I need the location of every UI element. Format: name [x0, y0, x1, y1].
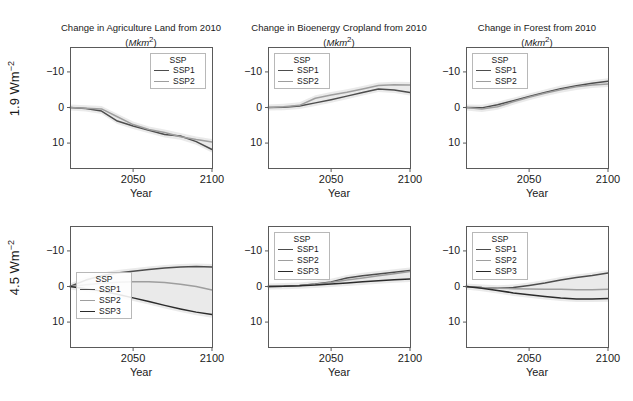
legend-item-ssp2[interactable]: SSP2 [275, 255, 329, 266]
legend-line-swatch-icon [476, 70, 491, 71]
legend-line-swatch-icon [80, 311, 95, 312]
legend-item-ssp3[interactable]: SSP3 [275, 266, 329, 277]
x-tick-label: 2100 [385, 173, 435, 185]
x-tick-label: 2050 [306, 352, 356, 364]
legend-item-ssp2[interactable]: SSP2 [275, 76, 329, 87]
panel-title-line1: Change in Agriculture Land from 2010 [61, 22, 221, 33]
legend-label: SSP1 [99, 284, 121, 295]
legend-agriculture-4p5[interactable]: SSPSSP1SSP2SSP3 [76, 272, 132, 320]
x-axis-label-forest-1p9: Year [497, 187, 577, 199]
y-tick-label: 0 [224, 280, 262, 292]
legend-line-swatch-icon [80, 289, 95, 290]
legend-label: SSP3 [495, 266, 517, 277]
figure-panel-grid: Change in Agriculture Land from 2010(Mkm… [0, 0, 633, 401]
y-tick-label: 0 [26, 280, 64, 292]
y-tick-label: 0 [422, 101, 460, 113]
x-axis-label-bioenergy-1p9: Year [299, 187, 379, 199]
legend-item-ssp1[interactable]: SSP1 [473, 65, 527, 76]
legend-label: SSP2 [99, 295, 121, 306]
legend-line-swatch-icon [154, 81, 169, 82]
legend-line-swatch-icon [476, 271, 491, 272]
legend-forest-4p5[interactable]: SSPSSP1SSP2SSP3 [472, 232, 528, 280]
panel-title-forest-1p9: Change in Forest from 2010(Mkm2) [427, 22, 633, 49]
y-tick-label: 10 [422, 315, 460, 327]
x-axis-label-agriculture-4p5: Year [101, 366, 181, 378]
legend-item-ssp2[interactable]: SSP2 [77, 295, 131, 306]
y-tick-label: −10 [422, 244, 460, 256]
legend-item-ssp1[interactable]: SSP1 [77, 284, 131, 295]
y-tick-label: −10 [224, 244, 262, 256]
x-tick-label: 2100 [187, 173, 237, 185]
y-tick-label: 10 [26, 136, 64, 148]
x-tick-label: 2050 [108, 352, 158, 364]
legend-line-swatch-icon [278, 249, 293, 250]
legend-title: SSP [275, 54, 329, 65]
legend-title: SSP [473, 54, 527, 65]
panel-title-line1: Change in Forest from 2010 [478, 22, 596, 33]
panel-title-bioenergy-1p9: Change in Bioenergy Cropland from 2010(M… [229, 22, 449, 49]
y-tick-label: −10 [26, 244, 64, 256]
x-axis-label-bioenergy-4p5: Year [299, 366, 379, 378]
x-tick-label: 2050 [504, 352, 554, 364]
row-label-rcp45: 4.5 Wm−2 [6, 279, 22, 295]
panel-title-units: (Mkm2) [427, 34, 633, 49]
legend-line-swatch-icon [476, 260, 491, 261]
y-tick-label: 0 [224, 101, 262, 113]
legend-label: SSP3 [297, 266, 319, 277]
x-tick-label: 2050 [306, 173, 356, 185]
legend-bioenergy-1p9[interactable]: SSPSSP1SSP2 [274, 53, 330, 89]
x-axis-label-forest-4p5: Year [497, 366, 577, 378]
y-tick-label: 0 [26, 101, 64, 113]
legend-line-swatch-icon [278, 70, 293, 71]
y-tick-label: 10 [224, 315, 262, 327]
legend-item-ssp2[interactable]: SSP2 [473, 255, 527, 266]
legend-line-swatch-icon [278, 271, 293, 272]
panel-title-line1: Change in Bioenergy Cropland from 2010 [251, 22, 426, 33]
panel-title-units: (Mkm2) [229, 34, 449, 49]
legend-label: SSP2 [297, 255, 319, 266]
legend-label: SSP2 [297, 76, 319, 87]
x-tick-label: 2050 [504, 173, 554, 185]
y-tick-label: 0 [422, 280, 460, 292]
x-tick-label: 2100 [385, 352, 435, 364]
legend-line-swatch-icon [278, 81, 293, 82]
legend-label: SSP1 [297, 65, 319, 76]
legend-label: SSP2 [173, 76, 195, 87]
legend-label: SSP1 [297, 244, 319, 255]
legend-label: SSP3 [99, 306, 121, 317]
panel-title-agriculture-1p9: Change in Agriculture Land from 2010(Mkm… [31, 22, 251, 49]
legend-item-ssp1[interactable]: SSP1 [473, 244, 527, 255]
legend-item-ssp1[interactable]: SSP1 [151, 65, 205, 76]
legend-label: SSP1 [173, 65, 195, 76]
y-tick-label: 10 [224, 136, 262, 148]
legend-line-swatch-icon [476, 249, 491, 250]
legend-line-swatch-icon [476, 81, 491, 82]
legend-agriculture-1p9[interactable]: SSPSSP1SSP2 [150, 53, 206, 89]
x-axis-label-agriculture-1p9: Year [101, 187, 181, 199]
legend-title: SSP [275, 233, 329, 244]
legend-item-ssp1[interactable]: SSP1 [275, 244, 329, 255]
row-label-rcp19: 1.9 Wm−2 [6, 100, 22, 116]
legend-bioenergy-4p5[interactable]: SSPSSP1SSP2SSP3 [274, 232, 330, 280]
legend-item-ssp3[interactable]: SSP3 [473, 266, 527, 277]
legend-line-swatch-icon [154, 70, 169, 71]
legend-label: SSP2 [495, 76, 517, 87]
legend-forest-1p9[interactable]: SSPSSP1SSP2 [472, 53, 528, 89]
legend-label: SSP1 [495, 244, 517, 255]
legend-title: SSP [151, 54, 205, 65]
legend-item-ssp2[interactable]: SSP2 [473, 76, 527, 87]
legend-label: SSP1 [495, 65, 517, 76]
legend-item-ssp1[interactable]: SSP1 [275, 65, 329, 76]
legend-label: SSP2 [495, 255, 517, 266]
y-tick-label: 10 [26, 315, 64, 327]
y-tick-label: −10 [224, 65, 262, 77]
x-tick-label: 2050 [108, 173, 158, 185]
legend-title: SSP [77, 273, 131, 284]
y-tick-label: 10 [422, 136, 460, 148]
legend-line-swatch-icon [80, 300, 95, 301]
legend-line-swatch-icon [278, 260, 293, 261]
legend-item-ssp3[interactable]: SSP3 [77, 306, 131, 317]
x-tick-label: 2100 [187, 352, 237, 364]
legend-item-ssp2[interactable]: SSP2 [151, 76, 205, 87]
x-tick-label: 2100 [583, 352, 633, 364]
